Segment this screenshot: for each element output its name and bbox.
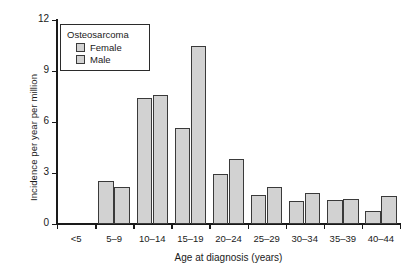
bar [251,195,267,224]
bar [289,201,305,224]
y-tick-mark [52,122,57,123]
legend-title: Osteosarcoma [67,29,143,40]
x-tick-mark [286,224,287,229]
bar [175,128,191,224]
x-tick-label: 10–14 [139,233,165,244]
x-tick-mark [248,224,249,229]
x-tick-label: 5–9 [106,233,122,244]
bar [381,196,397,224]
legend-entry-label: Male [90,54,111,65]
y-tick-label: 9 [43,64,49,75]
legend-entry: Male [76,54,143,65]
x-tick-label: 15–19 [177,233,203,244]
bar [343,199,359,224]
y-tick-label: 3 [43,166,49,177]
legend-swatch-icon [76,43,85,52]
x-axis-title: Age at diagnosis (years) [57,252,400,263]
bar [365,211,381,224]
bar [229,159,245,224]
bar [114,187,130,224]
legend-swatch-icon [76,55,85,64]
x-tick-label: <5 [71,233,82,244]
x-tick-mark [57,224,58,229]
y-axis-title: Incidence per year per million [22,0,44,275]
y-tick-mark [52,20,57,21]
x-tick-mark [400,224,401,229]
bar [153,95,169,224]
y-tick-label: 12 [38,13,49,24]
legend-entry: Female [76,42,143,53]
x-tick-mark [171,224,172,229]
x-tick-mark [95,224,96,229]
x-tick-label: 35–39 [330,233,356,244]
x-tick-label: 20–24 [215,233,241,244]
x-tick-label: 40–44 [368,233,394,244]
y-tick-label: 0 [43,217,49,228]
bar [98,181,114,224]
bar [327,200,343,224]
x-tick-mark [324,224,325,229]
legend-entry-label: Female [90,42,122,53]
osteosarcoma-incidence-bar-chart: Incidence per year per million 036912 <5… [0,0,410,275]
bar [267,187,283,224]
x-tick-mark [133,224,134,229]
bar [137,98,153,224]
x-tick-mark [362,224,363,229]
y-tick-label: 6 [43,115,49,126]
x-tick-label: 30–34 [292,233,318,244]
legend: Osteosarcoma FemaleMale [60,24,150,71]
bar [191,46,207,224]
y-tick-mark [52,173,57,174]
x-tick-mark [209,224,210,229]
x-tick-label: 25–29 [253,233,279,244]
bar [213,174,229,224]
legend-entries: FemaleMale [67,42,143,65]
y-tick-mark [52,71,57,72]
bar [305,193,321,224]
